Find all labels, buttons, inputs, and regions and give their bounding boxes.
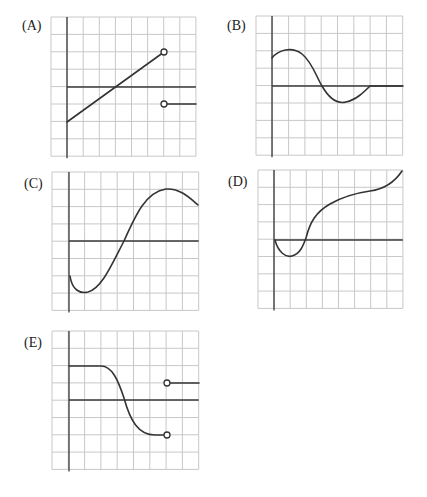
panel-label-e: (E): [24, 335, 42, 351]
panel-label-a: (A): [22, 18, 42, 34]
open-circle-icon: [161, 101, 167, 107]
open-circle-icon: [161, 49, 167, 55]
graph-panel-e: (E): [24, 331, 199, 471]
graph-panel-c: (C): [24, 172, 199, 312]
open-circle-icon: [164, 380, 170, 386]
panel-label-b: (B): [227, 18, 246, 34]
graph-panel-a: (A): [22, 17, 196, 158]
panel-label-c: (C): [24, 176, 43, 192]
graph-panel-b: (B): [227, 16, 403, 157]
grid-lines: [258, 170, 403, 308]
graph-panel-d: (D): [228, 170, 403, 310]
open-circle-icon: [164, 432, 170, 438]
panel-label-d: (D): [228, 174, 248, 190]
graphs-canvas: (A)(B)(C)(D)(E): [0, 0, 427, 497]
